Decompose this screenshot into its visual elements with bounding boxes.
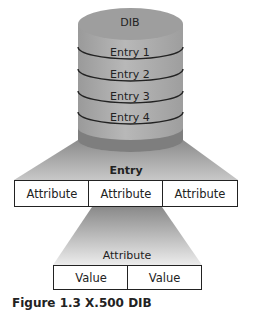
- entry-1-label: Entry 1: [100, 46, 160, 60]
- attribute-cell-3: Attribute: [162, 180, 238, 207]
- entry-4-label: Entry 4: [100, 111, 160, 125]
- attribute-cell-1: Attribute: [14, 180, 90, 207]
- entry-3-label: Entry 3: [100, 90, 160, 104]
- value-cell-2: Value: [127, 265, 202, 290]
- cylinder-body: [78, 24, 183, 152]
- figure-caption: Figure 1.3 X.500 DIB: [12, 296, 152, 310]
- attribute-cell-2: Attribute: [88, 180, 164, 207]
- value-cell-1: Value: [53, 265, 129, 290]
- attribute-title: Attribute: [92, 249, 162, 263]
- entry-2-label: Entry 2: [100, 68, 160, 82]
- dib-label: DIB: [100, 16, 160, 30]
- entry-title: Entry: [96, 164, 156, 178]
